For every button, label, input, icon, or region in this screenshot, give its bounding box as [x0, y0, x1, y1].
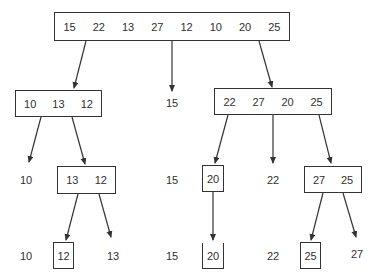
arrow-l2-to-25 [311, 193, 323, 240]
level2-right-pivot: 22 [267, 174, 279, 186]
level2-left-box: 13 12 [57, 166, 116, 194]
l2-left-value: 13 [66, 174, 78, 186]
level3-item: 10 [20, 250, 32, 262]
l2-small-value: 20 [207, 173, 219, 185]
level3-item: 25 [304, 250, 316, 262]
arrow-l1right-to-box [319, 115, 331, 163]
level3-item: 15 [166, 250, 178, 262]
l1-right-value: 20 [281, 96, 293, 108]
arrow-l2-to-27 [343, 193, 356, 237]
root-value: 22 [93, 21, 105, 33]
arrow-l1left-to-box [72, 117, 85, 164]
level3-item: 12 [57, 250, 69, 262]
l1-left-value: 12 [81, 98, 93, 110]
level2-left-pivot: 10 [20, 174, 32, 186]
level2-center: 15 [166, 174, 178, 186]
level1-right-box: 22 27 20 25 [214, 88, 332, 115]
root-value: 27 [151, 21, 163, 33]
l1-left-value: 13 [52, 98, 64, 110]
l2-right-value: 25 [341, 174, 353, 186]
level2-small-box: 20 [202, 165, 224, 192]
level3-item: 27 [351, 248, 363, 260]
arrow-l2-to-12 [66, 194, 78, 240]
level1-left-box: 10 13 12 [15, 90, 102, 117]
level3-item: 22 [267, 250, 279, 262]
level3-item: 20 [207, 250, 219, 262]
arrow-l1right-to-20 [215, 115, 228, 163]
l1-left-value: 10 [24, 98, 36, 110]
level1-pivot: 15 [166, 97, 178, 109]
arrow-l1left-to-10 [29, 117, 41, 162]
arrow-root-to-right [259, 41, 272, 87]
root-value: 20 [239, 21, 251, 33]
l2-right-value: 27 [313, 174, 325, 186]
l1-right-value: 27 [252, 96, 264, 108]
level3-item: 13 [107, 250, 119, 262]
root-value: 12 [181, 21, 193, 33]
l2-left-value: 12 [95, 174, 107, 186]
l1-right-value: 25 [310, 96, 322, 108]
root-value: 15 [64, 21, 76, 33]
arrow-l2-to-13 [99, 194, 111, 237]
l1-right-value: 22 [223, 96, 235, 108]
arrow-root-to-left [74, 41, 86, 88]
level3-boxed-item: 12 [53, 242, 74, 269]
root-value: 13 [122, 21, 134, 33]
level2-right-box: 27 25 [304, 166, 362, 193]
root-value: 25 [268, 21, 280, 33]
arrows-layer [0, 0, 376, 280]
root-array-box: 15 22 13 27 12 10 20 25 [54, 12, 290, 41]
level3-boxed-item: 25 [300, 242, 321, 269]
root-value: 10 [210, 21, 222, 33]
level3-open-box-item: 20 [202, 243, 224, 269]
